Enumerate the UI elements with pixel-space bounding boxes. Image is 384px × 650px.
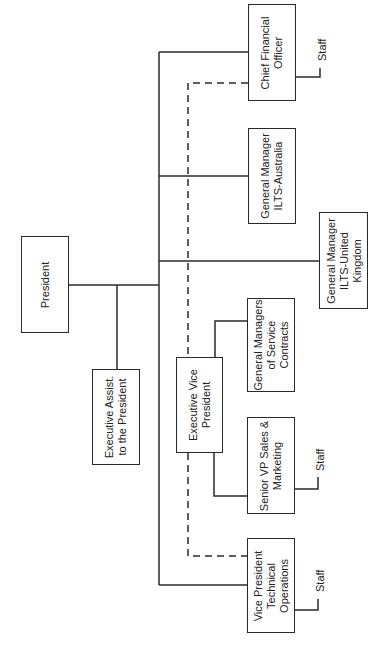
svp-staff-label: Staff [314,449,326,471]
gm-uk-box: General Manager ILTS-United Kingdom [319,212,368,309]
president-box: President [21,236,69,333]
cfo-box: Chief Financial Officer [248,4,296,101]
gm-service-box: General Managers of Service Contracts [247,298,295,392]
exec-assist-label: Executive Assist. to the President [103,376,129,459]
evp-label: Executive Vice President [187,369,213,441]
gm-australia-label: General Manager ILTS-Australia [259,133,285,219]
cfo-staff-label: Staff [316,39,328,61]
cfo-label: Chief Financial Officer [259,16,285,89]
svp-sales-box: Senior VP Sales & Marketing [247,417,295,514]
gm-service-label: General Managers of Service Contracts [252,299,291,390]
exec-assist-box: Executive Assist. to the President [92,369,140,465]
gm-uk-label: General Manager ILTS-United Kingdom [324,218,363,304]
evp-box: Executive Vice President [176,357,223,453]
gm-australia-box: General Manager ILTS-Australia [248,128,296,224]
svp-sales-label: Senior VP Sales & Marketing [258,420,284,510]
vp-tech-box: Vice President Technical Operations [247,538,295,633]
vp-tech-label: Vice President Technical Operations [252,550,291,621]
vp-tech-staff-label: Staff [314,570,326,592]
president-label: President [39,261,52,307]
